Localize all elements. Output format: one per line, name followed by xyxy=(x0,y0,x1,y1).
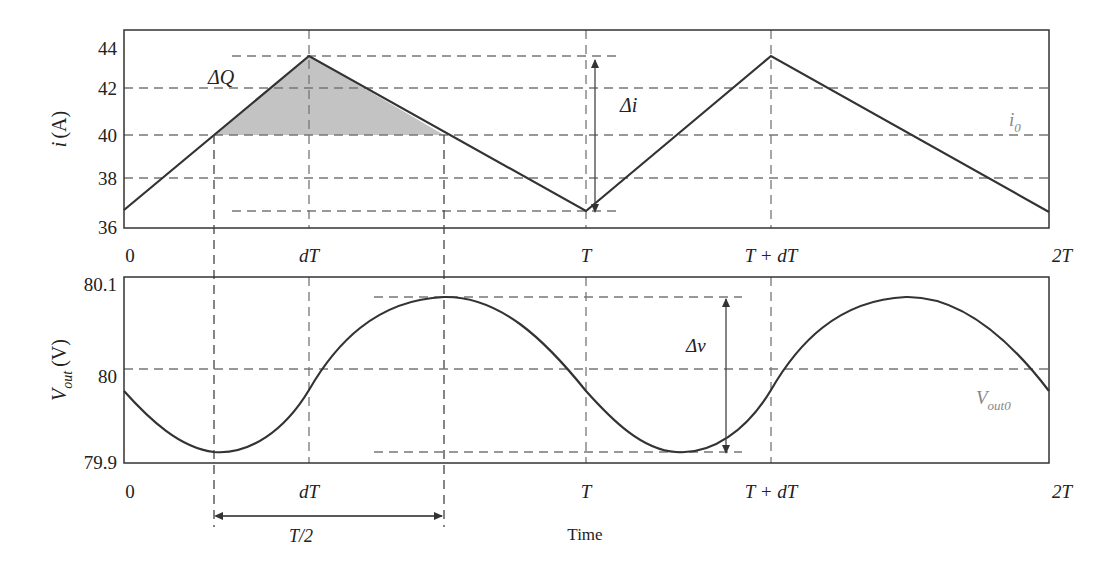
voltage-y-ticks: 80.1 80 79.9 xyxy=(84,274,117,473)
svg-text:44: 44 xyxy=(98,38,118,59)
svg-text:T: T xyxy=(581,481,593,502)
voltage-plot: 80.1 80 79.9 Vout(V) 0 dT T T + dT 2T Δv… xyxy=(48,274,1073,546)
i0-label: i0 xyxy=(1009,109,1021,135)
current-y-label: i(A) xyxy=(48,111,71,147)
time-axis-label: Time xyxy=(567,525,602,544)
delta-q-label: ΔQ xyxy=(207,66,235,88)
svg-text:2T: 2T xyxy=(1052,481,1074,502)
svg-text:38: 38 xyxy=(98,168,117,189)
svg-text:0: 0 xyxy=(125,245,135,266)
voltage-x-ticks: 0 dT T T + dT 2T xyxy=(125,481,1073,502)
current-x-ticks: 0 dT T T + dT 2T xyxy=(125,245,1073,266)
svg-text:Vout(V): Vout(V) xyxy=(48,339,75,401)
svg-text:36: 36 xyxy=(98,217,117,238)
voltage-grid-lines xyxy=(124,277,1049,463)
svg-text:42: 42 xyxy=(98,78,117,99)
svg-text:T + dT: T + dT xyxy=(745,245,799,266)
vout0-label: Vout0 xyxy=(976,387,1011,413)
svg-text:80: 80 xyxy=(98,366,117,387)
svg-text:40: 40 xyxy=(98,125,117,146)
svg-text:79.9: 79.9 xyxy=(84,452,117,473)
svg-text:T + dT: T + dT xyxy=(745,481,799,502)
current-plot: 44 42 40 38 36 i(A) 0 dT T T + dT 2T ΔQ … xyxy=(48,30,1073,266)
half-period-label: T/2 xyxy=(289,526,313,546)
ripple-figure: 44 42 40 38 36 i(A) 0 dT T T + dT 2T ΔQ … xyxy=(0,0,1118,570)
svg-text:dT: dT xyxy=(299,481,321,502)
svg-text:80.1: 80.1 xyxy=(84,274,117,295)
delta-v-label: Δv xyxy=(685,335,706,356)
voltage-y-label: Vout(V) xyxy=(48,339,75,401)
half-period-markers xyxy=(214,135,444,527)
svg-text:2T: 2T xyxy=(1052,245,1074,266)
current-y-ticks: 44 42 40 38 36 xyxy=(98,38,118,238)
delta-i-label: Δi xyxy=(619,94,637,116)
svg-text:i(A): i(A) xyxy=(48,111,71,147)
svg-text:T: T xyxy=(581,245,593,266)
svg-text:0: 0 xyxy=(125,481,135,502)
svg-text:dT: dT xyxy=(299,245,321,266)
